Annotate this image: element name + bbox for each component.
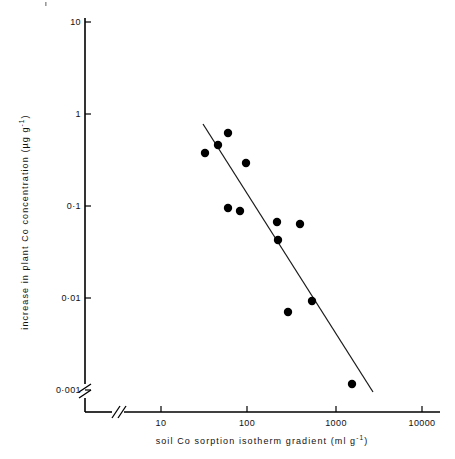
- y-axis-title-tail: ): [20, 114, 30, 118]
- data-points-group: [201, 129, 356, 388]
- x-tick-label-100: 100: [239, 418, 255, 428]
- y-axis-title: increase in plant Co concentration (µg g…: [18, 114, 30, 329]
- data-point: [273, 218, 281, 226]
- figure-container: 10 1 0·1 0·01 0·001 1: [0, 0, 455, 459]
- data-point: [242, 159, 250, 167]
- y-axis-ticks: [85, 22, 91, 390]
- y-tick-label-0-001: 0·001: [56, 385, 81, 395]
- data-point: [236, 207, 244, 215]
- data-point: [348, 380, 356, 388]
- data-point: [296, 220, 304, 228]
- scan-speck: [45, 2, 47, 6]
- data-point: [201, 149, 209, 157]
- x-axis: 10 100 1000 10000: [85, 406, 440, 428]
- y-tick-label-0-01: 0·01: [61, 293, 81, 303]
- regression-fit-line: [203, 124, 373, 392]
- y-axis-title-main: increase in plant Co concentration (µg g: [20, 126, 30, 329]
- data-point: [308, 297, 316, 305]
- y-axis: 10 1 0·1 0·01 0·001: [56, 17, 91, 412]
- data-point: [284, 308, 292, 316]
- x-tick-label-1000: 1000: [325, 418, 347, 428]
- y-tick-label-0-1: 0·1: [67, 201, 81, 211]
- x-axis-break-icon: [112, 406, 126, 418]
- y-tick-label-1: 1: [76, 109, 81, 119]
- x-tick-label-10000: 10000: [408, 418, 435, 428]
- data-point: [224, 204, 232, 212]
- y-axis-title-superscript: -1: [18, 118, 25, 126]
- data-point: [214, 141, 222, 149]
- x-axis-title-main: soil Co sorption isotherm gradient (ml g: [156, 436, 357, 446]
- y-tick-label-10: 10: [70, 17, 81, 27]
- data-point: [224, 129, 232, 137]
- x-axis-ticks: [161, 406, 422, 412]
- scatter-plot-svg: 10 1 0·1 0·01 0·001 1: [0, 0, 455, 459]
- x-tick-label-10: 10: [156, 418, 167, 428]
- data-point: [274, 236, 282, 244]
- x-axis-title-tail: ): [364, 436, 368, 446]
- x-axis-title: soil Co sorption isotherm gradient (ml g…: [156, 434, 369, 446]
- x-axis-title-superscript: -1: [356, 434, 364, 441]
